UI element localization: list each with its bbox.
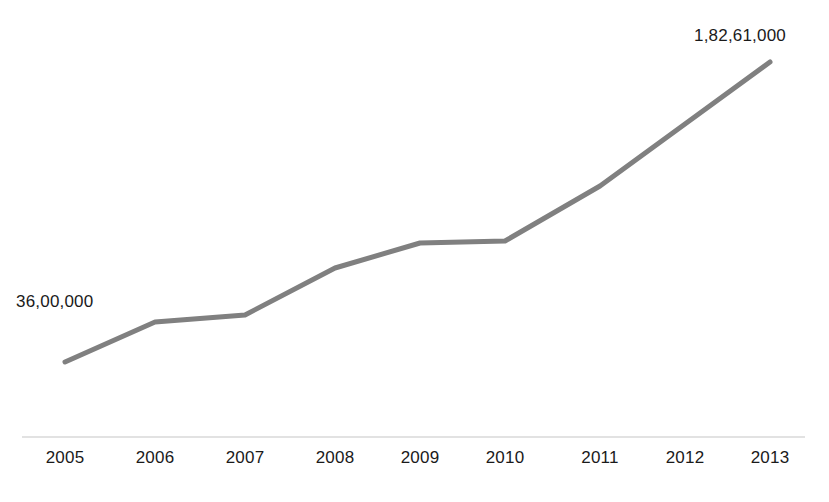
end-value-label: 1,82,61,000 [694,26,786,46]
x-axis-tick-2009: 2009 [375,448,465,468]
x-axis-tick-2012: 2012 [640,448,730,468]
x-axis-tick-2010: 2010 [460,448,550,468]
x-axis-tick-2011: 2011 [555,448,645,468]
x-axis-tick-2006: 2006 [110,448,200,468]
x-axis-tick-2013: 2013 [725,448,815,468]
x-axis-tick-2007: 2007 [200,448,290,468]
x-axis-tick-2005: 2005 [20,448,110,468]
start-value-label: 36,00,000 [16,292,93,312]
x-axis-tick-labels: 200520062007200820092010201120122013 [0,448,829,476]
line-chart: 36,00,000 1,82,61,000 200520062007200820… [0,0,829,502]
data-series-line [65,62,770,362]
x-axis-tick-2008: 2008 [290,448,380,468]
chart-plot-area [0,0,829,502]
